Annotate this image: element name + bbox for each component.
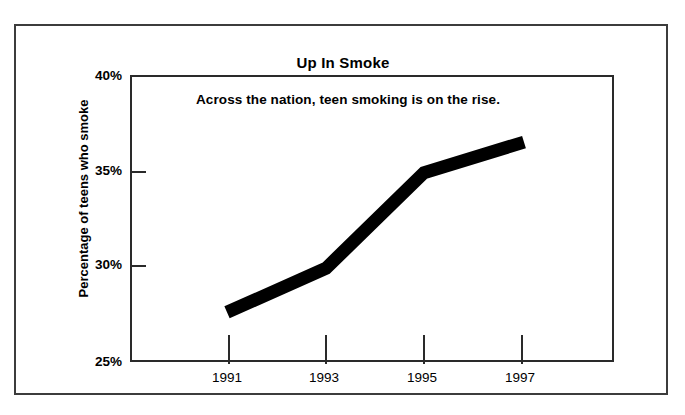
y-tick-label-35: 35% bbox=[64, 163, 122, 178]
data-series-line bbox=[227, 142, 524, 312]
figure-frame: Up In Smoke Percentage of teens who smok… bbox=[14, 24, 668, 395]
plot-area: Across the nation, teen smoking is on th… bbox=[130, 75, 614, 362]
x-tick-label-1997: 1997 bbox=[490, 370, 550, 385]
x-axis-ticks bbox=[229, 335, 522, 364]
x-tick-label-1991: 1991 bbox=[197, 370, 257, 385]
x-tick-label-1993: 1993 bbox=[294, 370, 354, 385]
y-tick-label-30: 30% bbox=[64, 257, 122, 272]
y-tick-label-25: 25% bbox=[64, 354, 122, 369]
plot-svg bbox=[132, 77, 616, 364]
y-axis-title: Percentage of teens who smoke bbox=[76, 69, 91, 329]
y-tick-label-40: 40% bbox=[64, 68, 122, 83]
y-axis-ticks bbox=[132, 172, 146, 266]
x-tick-label-1995: 1995 bbox=[392, 370, 452, 385]
